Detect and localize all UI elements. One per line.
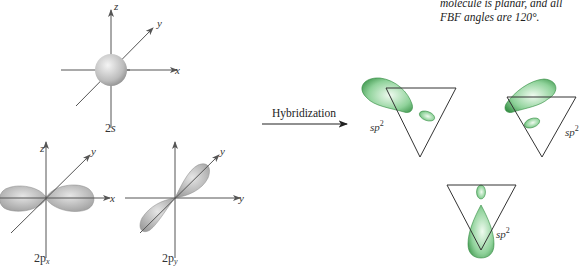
sp2-hybrid-right: sp2 bbox=[505, 79, 579, 157]
svg-text:y: y bbox=[238, 192, 244, 204]
y-axis-label: y bbox=[156, 17, 162, 29]
svg-text:z: z bbox=[39, 142, 45, 154]
svg-text:y: y bbox=[219, 145, 225, 157]
svg-text:x: x bbox=[109, 192, 115, 204]
hybridization-arrow: Hybridization bbox=[262, 107, 347, 124]
orbital-label-2s: 2s bbox=[105, 121, 116, 135]
z-axis-label: z bbox=[113, 0, 119, 12]
orbital-2py: y y 2py bbox=[125, 142, 244, 266]
hybridization-label: Hybridization bbox=[272, 107, 336, 120]
hybridization-diagram: z y x 2s z y x 2px y y 2py Hybridization… bbox=[0, 0, 587, 267]
x-axis-label: x bbox=[174, 64, 180, 76]
svg-text:y: y bbox=[90, 145, 96, 157]
orbital-label-2py: 2py bbox=[162, 251, 178, 266]
s-orbital-sphere bbox=[95, 54, 127, 86]
sp2-hybrid-bottom: sp2 bbox=[447, 185, 516, 258]
orbital-2px: z y x 2px bbox=[0, 142, 115, 266]
hybrid-label-2: sp2 bbox=[565, 124, 579, 138]
hybrid-label-3: sp2 bbox=[496, 226, 510, 240]
px-lobe-left bbox=[0, 186, 46, 211]
hybrid-label-1: sp2 bbox=[370, 119, 384, 133]
orbital-2s: z y x 2s bbox=[61, 0, 180, 135]
orbital-label-2px: 2px bbox=[34, 251, 50, 266]
sp2-hybrid-left: sp2 bbox=[362, 78, 456, 157]
